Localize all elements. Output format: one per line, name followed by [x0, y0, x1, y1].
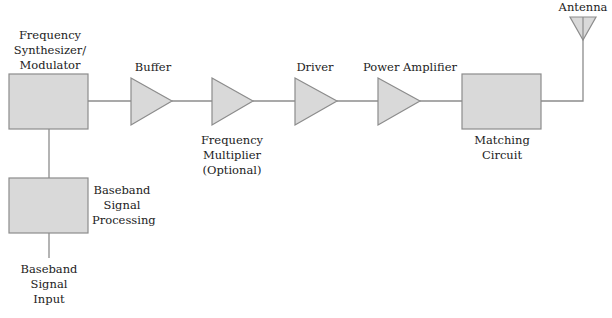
multiplier-label-line: Frequency — [192, 133, 272, 148]
buffer-label: Buffer — [118, 60, 188, 75]
synth-label-line: Frequency — [0, 28, 100, 43]
buffer-amp-icon — [131, 78, 172, 125]
multiplier-label: Frequency Multiplier (Optional) — [192, 133, 272, 178]
multiplier-amp-icon — [212, 78, 253, 125]
input-label-line: Input — [9, 292, 89, 307]
input-label-line: Baseband — [9, 262, 89, 277]
baseband-label-line: Baseband — [92, 183, 152, 198]
matching-label-line: Matching — [460, 133, 544, 148]
antenna-label: Antenna — [553, 0, 612, 15]
driver-label: Driver — [280, 60, 350, 75]
synthesizer-block — [9, 74, 88, 129]
synth-label-line: Synthesizer/ — [0, 43, 100, 58]
baseband-processing-label: Baseband Signal Processing — [92, 183, 152, 228]
matching-label-line: Circuit — [460, 148, 544, 163]
driver-amp-icon — [295, 78, 337, 125]
matching-block — [462, 74, 541, 129]
baseband-input-label: Baseband Signal Input — [9, 262, 89, 307]
input-label-line: Signal — [9, 277, 89, 292]
power-amp-icon — [378, 78, 420, 125]
baseband-label-line: Processing — [92, 213, 152, 228]
matching-label: Matching Circuit — [460, 133, 544, 163]
power-amplifier-label: Power Amplifier — [350, 60, 470, 75]
synth-label-line: Modulator — [0, 58, 100, 73]
multiplier-label-line: (Optional) — [192, 163, 272, 178]
baseband-label-line: Signal — [92, 198, 152, 213]
synth-label: Frequency Synthesizer/ Modulator — [0, 28, 100, 73]
multiplier-label-line: Multiplier — [192, 148, 272, 163]
baseband-block — [9, 178, 88, 233]
